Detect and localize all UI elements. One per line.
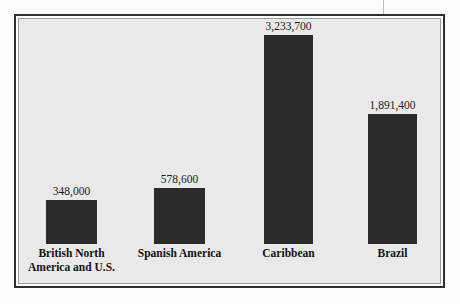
bar-value-label: 3,233,700 xyxy=(266,20,312,33)
bar-category-label: Spanish America xyxy=(138,247,221,261)
bar-group-british-north-america: 348,000 British North America and U.S. xyxy=(46,200,97,244)
chart-frame: 348,000 British North America and U.S. 5… xyxy=(14,14,445,288)
bar-category-label-line1: British North xyxy=(28,247,115,261)
bar-value-label: 348,000 xyxy=(53,185,90,198)
scan-artifact-line xyxy=(383,0,384,15)
bar-category-label: Brazil xyxy=(377,247,407,261)
bar-category-label-line2: America and U.S. xyxy=(28,261,115,275)
bar-rect xyxy=(264,35,313,244)
plot-area: 348,000 British North America and U.S. 5… xyxy=(19,19,440,283)
bar-rect xyxy=(46,200,97,244)
bar-category-label: British North America and U.S. xyxy=(28,247,115,274)
bar-value-label: 578,600 xyxy=(161,173,198,186)
bar-category-label: Caribbean xyxy=(262,247,314,261)
bar-rect xyxy=(368,114,417,244)
bar-category-label-line1: Caribbean xyxy=(262,247,314,261)
bar-category-label-line1: Spanish America xyxy=(138,247,221,261)
chart-panel: 348,000 British North America and U.S. 5… xyxy=(18,18,441,284)
bar-value-label: 1,891,400 xyxy=(370,99,416,112)
bar-group-brazil: 1,891,400 Brazil xyxy=(368,114,417,244)
bar-group-caribbean: 3,233,700 Caribbean xyxy=(264,35,313,244)
bar-category-label-line1: Brazil xyxy=(377,247,407,261)
bar-group-spanish-america: 578,600 Spanish America xyxy=(154,188,205,244)
bar-rect xyxy=(154,188,205,244)
